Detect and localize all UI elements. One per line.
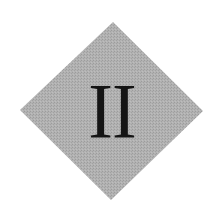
roman-numeral-label: II — [6, 72, 219, 150]
chapter-emblem: II — [0, 0, 224, 207]
